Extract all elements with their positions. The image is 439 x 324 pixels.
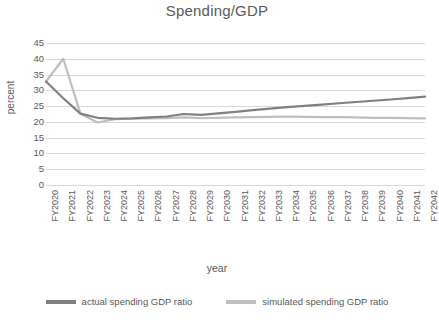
x-tick-label: FY2030 [222, 190, 232, 250]
legend-label: actual spending GDP ratio [82, 296, 193, 307]
x-tick-label: FY2034 [291, 190, 301, 250]
y-axis-tick-labels: 051015202530354045 [14, 0, 44, 324]
y-tick-label: 20 [18, 117, 44, 127]
legend-item[interactable]: actual spending GDP ratio [46, 296, 193, 307]
y-tick-label: 0 [18, 180, 44, 190]
x-tick-label: FY2020 [50, 190, 60, 250]
legend-swatch-icon [226, 300, 256, 304]
chart-title: Spending/GDP [0, 2, 434, 19]
x-tick-label: FY2036 [326, 190, 336, 250]
x-tick-label: FY2039 [377, 190, 387, 250]
x-axis-title: year [0, 262, 434, 274]
series-line [46, 82, 425, 119]
x-tick-label: FY2031 [240, 190, 250, 250]
x-tick-label: FY2023 [102, 190, 112, 250]
x-tick-label: FY2024 [119, 190, 129, 250]
x-tick-label: FY2038 [360, 190, 370, 250]
legend-swatch-icon [46, 300, 76, 304]
x-tick-label: FY2032 [257, 190, 267, 250]
series-lines [46, 43, 425, 185]
series-line [46, 59, 425, 123]
y-tick-label: 10 [18, 148, 44, 158]
legend-label: simulated spending GDP ratio [262, 296, 388, 307]
x-axis-tick-labels: FY2020FY2021FY2022FY2023FY2024FY2025FY20… [46, 188, 425, 260]
y-tick-label: 35 [18, 70, 44, 80]
x-tick-label: FY2035 [308, 190, 318, 250]
x-tick-label: FY2042 [429, 190, 439, 250]
plot-area [46, 43, 425, 185]
y-tick-label: 30 [18, 85, 44, 95]
chart-legend: actual spending GDP ratiosimulated spend… [0, 296, 434, 307]
gridline [46, 185, 425, 186]
y-tick-label: 40 [18, 54, 44, 64]
y-tick-label: 45 [18, 38, 44, 48]
x-tick-label: FY2029 [205, 190, 215, 250]
x-tick-label: FY2033 [274, 190, 284, 250]
x-tick-label: FY2040 [395, 190, 405, 250]
x-tick-label: FY2021 [67, 190, 77, 250]
y-tick-label: 25 [18, 101, 44, 111]
x-tick-label: FY2041 [412, 190, 422, 250]
x-tick-label: FY2037 [343, 190, 353, 250]
x-tick-label: FY2028 [188, 190, 198, 250]
x-tick-label: FY2022 [85, 190, 95, 250]
y-tick-label: 5 [18, 164, 44, 174]
x-tick-label: FY2026 [153, 190, 163, 250]
x-tick-label: FY2025 [136, 190, 146, 250]
y-tick-label: 15 [18, 133, 44, 143]
legend-item[interactable]: simulated spending GDP ratio [226, 296, 388, 307]
x-tick-label: FY2027 [171, 190, 181, 250]
